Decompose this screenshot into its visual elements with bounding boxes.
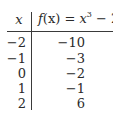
- row-2-x: 0: [0, 67, 26, 81]
- row-0-x: −2: [0, 36, 26, 50]
- row-0-f: −10: [40, 36, 85, 50]
- row-1-x: −1: [0, 52, 26, 66]
- header-x: x: [12, 12, 26, 28]
- row-3-f: −1: [40, 82, 85, 96]
- row-3-x: 1: [0, 82, 26, 96]
- header-fx: f(x) = x3 − 2: [38, 11, 113, 27]
- row-2-f: −2: [40, 67, 85, 81]
- header-f-var: x: [79, 11, 86, 26]
- row-4-x: 2: [0, 97, 26, 111]
- function-value-table: x f(x) = x3 − 2 −2 −10 −1 −3 0 −2 1 −1 2…: [0, 0, 113, 124]
- row-1-f: −3: [40, 52, 85, 66]
- row-4-f: 6: [40, 97, 85, 111]
- header-f-arg: (x) =: [43, 11, 80, 26]
- header-f-suffix: − 2: [92, 11, 113, 26]
- header-divider-line: [7, 31, 113, 32]
- column-divider-line: [31, 12, 32, 110]
